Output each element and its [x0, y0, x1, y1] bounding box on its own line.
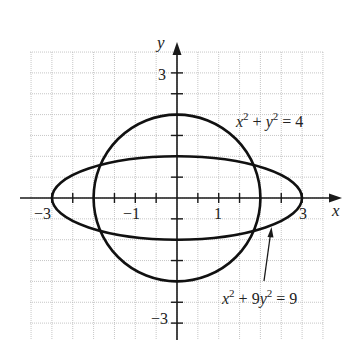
- y-axis-arrow-icon: [173, 42, 182, 55]
- x-axis-label: x: [331, 201, 340, 220]
- ellipse-eq-x: x: [221, 290, 229, 307]
- ellipse-eq-plus: + 9: [235, 290, 260, 307]
- circle-eq-rhs: = 4: [278, 113, 303, 130]
- circle-eq-plus: +: [249, 113, 266, 130]
- ellipse-pointer-line: [264, 234, 271, 281]
- y-axis-label: y: [155, 33, 165, 52]
- x-tick-label-neg1: −1: [123, 205, 140, 222]
- x-tick-label-neg3: −3: [34, 205, 51, 222]
- y-tick-label-neg3: −3: [151, 310, 168, 327]
- circle-eq-x: x: [235, 113, 243, 130]
- ellipse-pointer-arrow-icon: [268, 227, 274, 238]
- y-tick-label-3: 3: [158, 66, 166, 83]
- ellipse-equation-label: x2 + 9y2 = 9: [221, 287, 297, 308]
- ellipse-eq-rhs: = 9: [272, 290, 297, 307]
- graph: x y −3 −1 1 3 3 −3 x2 + y2 = 4 x2 + 9y2 …: [0, 0, 361, 362]
- x-tick-label-3: 3: [299, 205, 307, 222]
- x-tick-label-1: 1: [214, 205, 222, 222]
- circle-equation-label: x2 + y2 = 4: [235, 110, 303, 131]
